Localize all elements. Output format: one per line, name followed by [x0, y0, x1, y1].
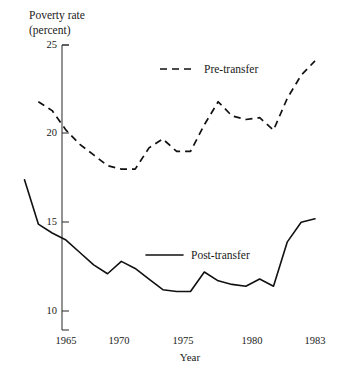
- legend-label-pre-transfer: Pre-transfer: [204, 63, 258, 75]
- x-tick-label-1970: 1970: [109, 335, 130, 346]
- x-axis-title: Year: [180, 351, 201, 363]
- y-tick-label-15: 15: [47, 216, 58, 227]
- series-line-pre-transfer: [38, 61, 315, 169]
- y-tick-label-10: 10: [47, 305, 58, 316]
- x-tick-label-1975: 1975: [173, 335, 194, 346]
- poverty-rate-figure: Poverty rate (percent) 25 20 15 10 1965 …: [0, 0, 346, 381]
- chart-canvas: 25 20 15 10 1965 1970 1975 1980 1983 Yea…: [0, 0, 346, 381]
- x-tick-label-1980: 1980: [242, 335, 263, 346]
- y-tick-label-25: 25: [47, 39, 58, 50]
- y-tick-label-20: 20: [47, 127, 58, 138]
- x-tick-label-1965: 1965: [56, 335, 77, 346]
- series-line-post-transfer: [25, 180, 316, 292]
- legend-label-post-transfer: Post-transfer: [191, 249, 250, 261]
- x-tick-label-1983: 1983: [305, 335, 326, 346]
- page-edge-artifact: [0, 373, 346, 381]
